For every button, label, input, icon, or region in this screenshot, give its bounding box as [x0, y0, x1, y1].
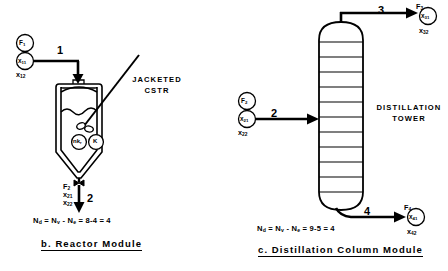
reactor-feed-flow-label: F1 — [19, 39, 25, 47]
column-feed-flow-label: F2 — [241, 97, 247, 105]
process-flow-diagram: F1 x11 x12 1 nkr K JACKETED CSTR F2 x21 … — [0, 0, 448, 271]
reactor-panel-caption: b. Reactor Module — [41, 238, 142, 251]
reactor-dof-equation: Nd = Nv - Ne = 8-4 = 4 — [33, 216, 111, 225]
column-panel-caption: c. Distillation Column Module — [258, 244, 423, 257]
reactor-outlet-composition2-label: x22 — [63, 199, 72, 209]
overhead-composition2-label: x32 — [419, 27, 428, 37]
bottoms-stream-number: 4 — [364, 205, 371, 217]
reactor-equipment-label: JACKETED CSTR — [126, 74, 188, 96]
column-shell — [319, 22, 363, 210]
column-equipment-label-line2: TOWER — [372, 113, 446, 124]
reactor-feed-composition2-label: x12 — [16, 71, 25, 81]
reactor-outlet-arrowhead — [74, 202, 85, 213]
column-feed-composition2-label: x22 — [238, 129, 247, 139]
column-feed-composition-label: x21 — [240, 115, 248, 123]
reactor-equipment-label-line1: JACKETED — [126, 74, 188, 85]
column-dof-equation: Nd = Nv - Ne = 9-5 = 4 — [257, 224, 335, 233]
column-equipment-label: DISTILLATION TOWER — [372, 102, 446, 124]
reactor-outlet-stream-number: 2 — [87, 192, 94, 204]
reactor-feed-composition-label: x11 — [18, 57, 26, 65]
reactor-module-drawing — [0, 0, 224, 271]
reactor-inlet-stream-number: 1 — [57, 44, 64, 56]
overhead-composition-label: x31 — [421, 12, 429, 20]
column-feed-stream-number: 2 — [271, 107, 278, 119]
bottoms-composition-label: x41 — [409, 213, 417, 221]
reaction-rate-parameter-label: nkr — [73, 138, 82, 145]
column-equipment-label-line1: DISTILLATION — [372, 102, 446, 113]
column-feed-arrowhead — [307, 114, 319, 125]
bottoms-composition2-label: x42 — [407, 228, 416, 238]
overhead-stream-number: 3 — [378, 4, 385, 16]
equilibrium-parameter-label: K — [93, 138, 97, 144]
reactor-feed-arrowhead — [73, 74, 84, 84]
reactor-equipment-label-line2: CSTR — [126, 85, 188, 96]
